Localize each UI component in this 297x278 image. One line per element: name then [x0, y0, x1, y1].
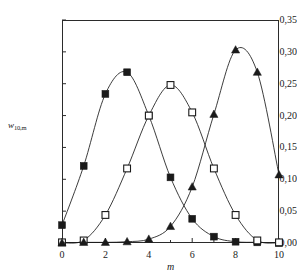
chart-figure: 0,000,050,100,150,200,250,300,35 0246810…	[0, 0, 297, 278]
x-tick-label: 6	[180, 250, 204, 260]
y-tick-label: 0,15	[243, 142, 297, 152]
y-tick-label: 0,25	[243, 79, 297, 89]
x-tick-label: 0	[50, 250, 74, 260]
y-tick-label: 0,35	[243, 15, 297, 25]
y-tick-label: 0,30	[243, 47, 297, 57]
y-tick-label: 0,00	[243, 238, 297, 248]
x-tick-label: 4	[137, 250, 161, 260]
y-tick-label: 0,20	[243, 111, 297, 121]
y-tick-label: 0,10	[243, 174, 297, 184]
y-tick-label: 0,05	[243, 206, 297, 216]
x-axis-label: m	[62, 261, 279, 272]
x-tick-label: 10	[267, 250, 291, 260]
y-axis-label: w10,m	[8, 120, 26, 131]
y-axis-label-subscript: 10,m	[14, 124, 26, 131]
x-tick-label: 8	[224, 250, 248, 260]
x-tick-label: 2	[93, 250, 117, 260]
